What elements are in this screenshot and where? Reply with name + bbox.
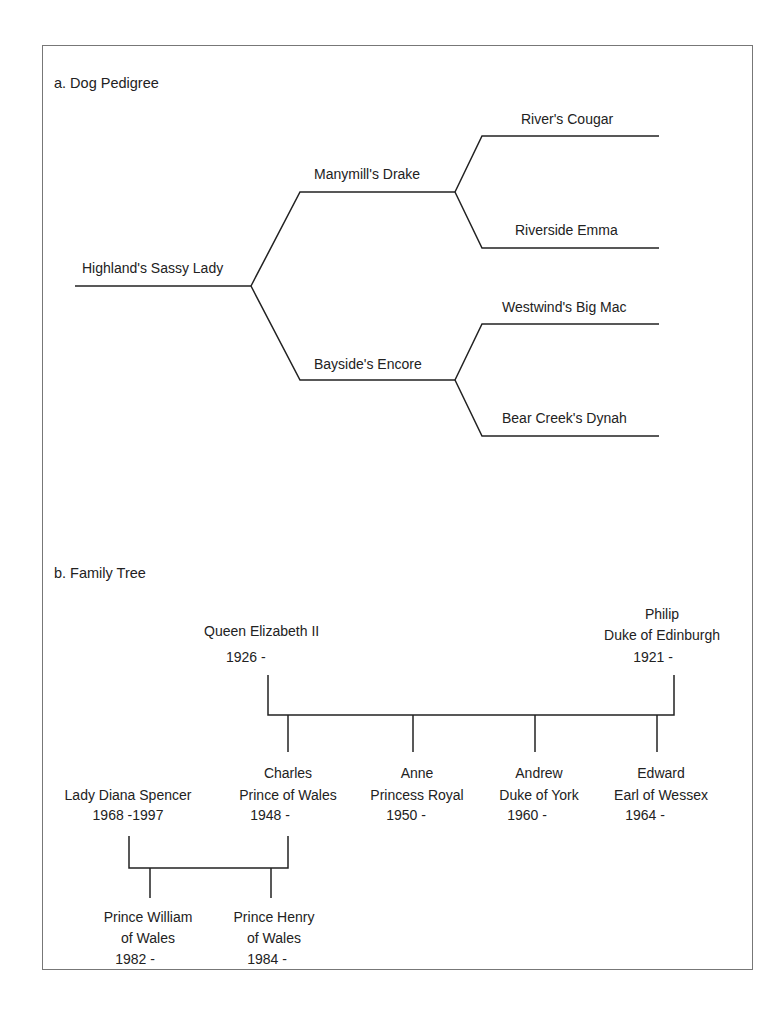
pedigree-sire-sire-label: River's Cougar	[521, 111, 613, 127]
child-node-edward: Edward Earl of Wessex 1964 -	[614, 765, 708, 823]
child-years: 1948 -	[250, 807, 290, 823]
marriage-line-queen-philip	[268, 675, 674, 715]
philip-title: Duke of Edinburgh	[604, 627, 720, 643]
philip-name: Philip	[645, 606, 679, 622]
child-node-andrew: Andrew Duke of York 1960 -	[499, 765, 579, 823]
child-node-charles: Charles Prince of Wales 1948 -	[239, 765, 337, 823]
pedigree-sire-dam-label: Riverside Emma	[515, 222, 618, 238]
diana-node: Lady Diana Spencer 1968 -1997	[65, 787, 192, 823]
pedigree-root-label: Highland's Sassy Lady	[82, 260, 223, 276]
philip-years: 1921 -	[633, 649, 673, 665]
child-title: Earl of Wessex	[614, 787, 708, 803]
diagram-canvas: a. Dog Pedigree Highland's Sassy Lady Ma…	[0, 0, 778, 1009]
marriage-line-diana-charles	[129, 836, 288, 868]
child-name: Charles	[264, 765, 312, 781]
pedigree-dam-dam-label: Bear Creek's Dynah	[502, 410, 627, 426]
child-name: Edward	[637, 765, 684, 781]
diana-years: 1968 -1997	[93, 807, 164, 823]
queen-name: Queen Elizabeth II	[204, 623, 319, 639]
queen-node: Queen Elizabeth II 1926 -	[204, 623, 319, 665]
sire-branch	[251, 192, 455, 286]
grandchild-title: of Wales	[121, 930, 175, 946]
queen-years: 1926 -	[226, 649, 266, 665]
pedigree-sire-label: Manymill's Drake	[314, 166, 420, 182]
grandchild-title: of Wales	[247, 930, 301, 946]
child-title: Princess Royal	[370, 787, 463, 803]
grandchild-name: Prince Henry	[234, 909, 315, 925]
child-years: 1960 -	[507, 807, 547, 823]
child-years: 1964 -	[625, 807, 665, 823]
diana-name: Lady Diana Spencer	[65, 787, 192, 803]
grandchild-node-william: Prince William of Wales 1982 -	[104, 909, 193, 967]
grandchild-years: 1984 -	[247, 951, 287, 967]
family-title: b. Family Tree	[54, 565, 146, 581]
child-name: Andrew	[515, 765, 563, 781]
grandchild-years: 1982 -	[115, 951, 155, 967]
child-title: Duke of York	[499, 787, 579, 803]
child-years: 1950 -	[386, 807, 426, 823]
child-node-anne: Anne Princess Royal 1950 -	[370, 765, 463, 823]
sire-dam-branch	[455, 192, 659, 248]
child-name: Anne	[401, 765, 434, 781]
sire-sire-branch	[455, 136, 659, 192]
grandchild-name: Prince William	[104, 909, 193, 925]
pedigree-dam-label: Bayside's Encore	[314, 356, 422, 372]
philip-node: Philip Duke of Edinburgh 1921 -	[604, 606, 720, 665]
dam-sire-branch	[455, 324, 659, 380]
child-title: Prince of Wales	[239, 787, 337, 803]
grandchild-node-henry: Prince Henry of Wales 1984 -	[234, 909, 315, 967]
dam-dam-branch	[455, 380, 659, 436]
pedigree-dam-sire-label: Westwind's Big Mac	[502, 299, 627, 315]
pedigree-title: a. Dog Pedigree	[54, 75, 159, 91]
